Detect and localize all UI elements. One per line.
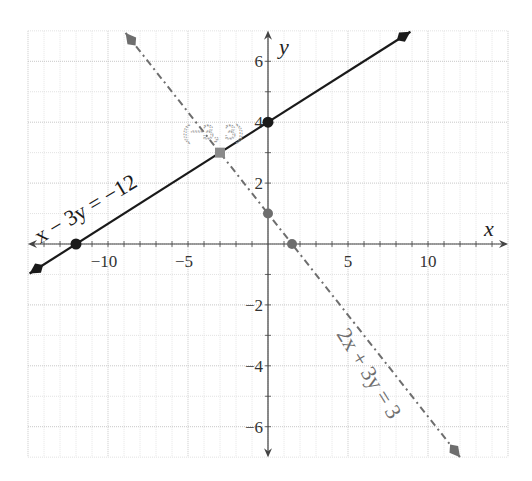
plotted-point: [287, 239, 297, 249]
axes: [28, 31, 508, 457]
arrowhead-icon: [449, 445, 460, 458]
y-tick-label: 2: [255, 174, 264, 193]
x-tick-label: −5: [175, 252, 193, 271]
y-tick-label: 6: [255, 52, 264, 71]
x-tick-label: 5: [344, 252, 353, 271]
y-tick-label: −6: [245, 418, 263, 437]
arrowhead-icon: [30, 264, 44, 274]
plotted-point: [263, 209, 273, 219]
y-axis-label: y: [277, 34, 289, 59]
y-tick-label: −2: [245, 296, 263, 315]
coordinate-plane: −10−5510−6−4−2246 x y x − 3y = −12 2x + …: [0, 0, 532, 481]
line1-equation-label: x − 3y = −12: [30, 169, 141, 249]
y-tick-label: −4: [245, 357, 264, 376]
arrowhead-icon: [397, 32, 411, 42]
intersection-label: (−3, 3): [183, 119, 243, 144]
x-tick-label: 10: [420, 252, 437, 271]
x-axis-label: x: [483, 216, 494, 241]
plotted-point: [71, 239, 82, 250]
arrowhead-icon: [126, 33, 137, 46]
plotted-point: [263, 117, 274, 128]
intersection-point: [215, 148, 225, 158]
x-tick-label: −10: [91, 252, 118, 271]
